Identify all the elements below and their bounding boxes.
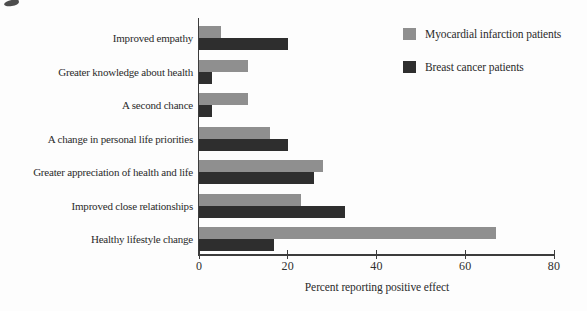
x-axis-tick-label-40: 40 [363,259,391,274]
bar-series1-cat0 [199,38,288,50]
x-axis-tick-label-60: 60 [451,259,479,274]
x-axis-tick-60 [465,250,466,259]
bar-series0-cat0 [199,26,221,38]
x-axis-tick-label-0: 0 [185,259,213,274]
legend-label-1: Breast cancer patients [425,61,524,73]
scan-artifact-mark [4,0,20,7]
legend: Myocardial infarction patientsBreast can… [403,27,561,93]
x-axis-tick-label-80: 80 [540,259,568,274]
bar-series1-cat3 [199,139,288,151]
category-label-0: Improved empathy [3,30,193,46]
legend-swatch-icon [403,28,416,40]
x-axis-tick-40 [376,250,377,259]
legend-swatch-icon [403,61,416,73]
bar-series1-cat1 [199,72,212,84]
bar-series0-cat5 [199,194,301,206]
category-label-4: Greater appreciation of health and life [3,164,193,180]
x-axis-title: Percent reporting positive effect [199,281,555,293]
bar-series0-cat2 [199,93,248,105]
bar-series1-cat6 [199,239,274,251]
category-label-6: Healthy lifestyle change [3,231,193,247]
bar-series1-cat2 [199,105,212,117]
bar-series0-cat3 [199,127,270,139]
x-axis-tick-label-20: 20 [274,259,302,274]
bar-chart-figure: 020406080Improved empathyGreater knowled… [0,0,587,311]
legend-entry-0: Myocardial infarction patients [403,27,561,40]
bar-series0-cat6 [199,227,496,239]
bar-series0-cat1 [199,60,248,72]
legend-entry-1: Breast cancer patients [403,60,561,73]
category-label-1: Greater knowledge about health [3,64,193,80]
category-label-3: A change in personal life priorities [3,131,193,147]
bar-series1-cat5 [199,206,345,218]
category-label-5: Improved close relationships [3,198,193,214]
category-label-2: A second chance [3,97,193,113]
x-axis-tick-20 [287,250,288,259]
x-axis-tick-0 [199,250,200,259]
legend-label-0: Myocardial infarction patients [425,28,561,40]
bar-series1-cat4 [199,172,314,184]
x-axis-tick-80 [554,250,555,259]
bar-series0-cat4 [199,160,323,172]
